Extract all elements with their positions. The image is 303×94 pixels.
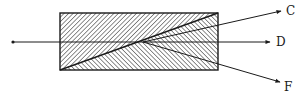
label-d: D <box>276 35 286 49</box>
prism-diagram: C D F <box>0 0 303 94</box>
label-f: F <box>284 80 292 94</box>
ray-origin-dot <box>11 40 14 43</box>
label-c: C <box>286 4 295 18</box>
